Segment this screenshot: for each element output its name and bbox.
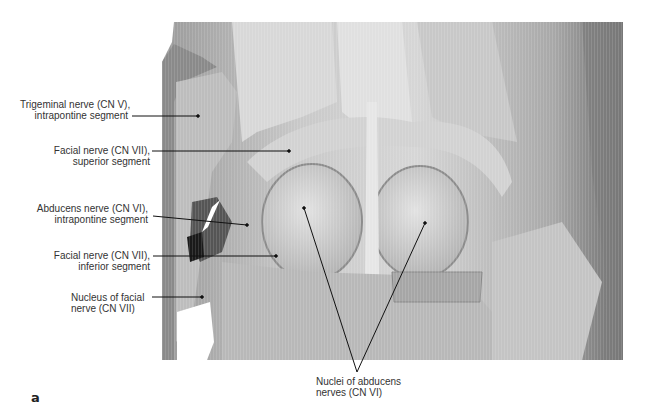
label-facial-nucleus: Nucleus of facial nerve (CN VII) <box>71 292 144 314</box>
label-line-1: Abducens nerve (CN VI), <box>20 203 148 214</box>
label-facial-nerve-inferior: Facial nerve (CN VII), inferior segment <box>38 250 150 272</box>
label-line-2: nerves (CN VI) <box>316 387 401 398</box>
label-trigeminal-nerve: Trigeminal nerve (CN V), intrapontine se… <box>20 99 128 121</box>
brainstem-dissection-photo <box>162 22 623 360</box>
label-line-1: Nucleus of facial <box>71 292 144 303</box>
label-line-2: inferior segment <box>38 261 150 272</box>
label-line-1: Facial nerve (CN VII), <box>38 145 150 156</box>
label-line-1: Facial nerve (CN VII), <box>38 250 150 261</box>
label-abducens-nerve: Abducens nerve (CN VI), intrapontine seg… <box>20 203 148 225</box>
label-facial-nerve-superior: Facial nerve (CN VII), superior segment <box>38 145 150 167</box>
label-line-2: nerve (CN VII) <box>71 303 144 314</box>
label-line-2: superior segment <box>38 156 150 167</box>
label-line-1: Nuclei of abducens <box>316 376 401 387</box>
label-line-2: intrapontine segment <box>20 110 128 121</box>
label-line-1: Trigeminal nerve (CN V), <box>20 99 128 110</box>
label-line-2: intrapontine segment <box>20 214 148 225</box>
panel-letter: a <box>31 390 40 405</box>
label-abducens-nuclei: Nuclei of abducens nerves (CN VI) <box>316 376 401 398</box>
